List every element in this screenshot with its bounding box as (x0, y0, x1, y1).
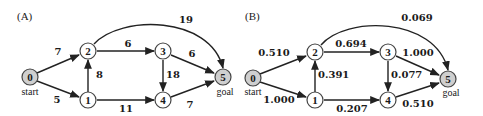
node-3: 3 (380, 44, 396, 60)
svg-text:4: 4 (385, 94, 391, 106)
node-3: 3 (155, 43, 171, 59)
weight-0-2: 7 (55, 46, 62, 57)
weight-0-2: 0.510 (258, 47, 289, 58)
edge-0-2 (260, 56, 306, 74)
svg-text:5: 5 (220, 71, 226, 83)
node-4: 4 (155, 92, 171, 108)
panel-a: (A) 7 5 8 6 19 11 18 6 7 (17, 10, 234, 114)
weight-2-5: 0.069 (401, 12, 432, 23)
weight-2-3: 0.694 (335, 38, 366, 49)
node-0: 0 start (244, 70, 261, 97)
goal-label: goal (442, 87, 459, 98)
weight-4-5: 0.510 (402, 98, 433, 109)
svg-text:0: 0 (27, 71, 33, 83)
start-label: start (21, 86, 38, 97)
node-5: 5 goal (215, 69, 234, 97)
weight-1-4: 0.207 (336, 103, 367, 114)
weight-3-4: 18 (166, 69, 180, 80)
node-4: 4 (380, 92, 396, 108)
node-1: 1 (80, 92, 96, 108)
weight-4-5: 7 (187, 99, 194, 110)
weight-1-2: 8 (96, 69, 103, 80)
weight-3-5: 1.000 (402, 47, 433, 58)
panel-b-weights: 0.510 1.000 0.391 0.694 0.069 0.207 0.07… (258, 12, 433, 114)
weight-1-2: 0.391 (318, 69, 349, 80)
panel-a-weights: 7 5 8 6 19 11 18 6 7 (54, 14, 196, 114)
svg-text:5: 5 (445, 73, 451, 85)
node-5: 5 goal (440, 71, 460, 98)
weight-1-4: 11 (119, 103, 133, 114)
panel-b: (B) 0.510 1.000 0.391 0.694 0.069 0.207 … (244, 10, 459, 114)
node-0: 0 start (21, 69, 38, 97)
svg-text:1: 1 (85, 94, 91, 106)
weight-3-5: 6 (189, 48, 196, 59)
svg-text:2: 2 (312, 46, 318, 58)
panel-a-edges (37, 25, 223, 100)
weight-3-4: 0.077 (391, 69, 422, 80)
edge-4-5 (396, 83, 439, 97)
svg-text:3: 3 (385, 46, 391, 58)
edge-4-5 (171, 81, 214, 97)
weight-2-3: 6 (125, 38, 132, 49)
svg-text:0: 0 (250, 72, 256, 84)
node-1: 1 (307, 92, 323, 108)
svg-text:2: 2 (85, 45, 91, 57)
panel-b-label: (B) (245, 10, 260, 23)
node-2: 2 (307, 44, 323, 60)
edge-0-2 (37, 55, 79, 73)
node-2: 2 (80, 43, 96, 59)
panel-a-label: (A) (17, 10, 33, 23)
start-label: start (244, 86, 261, 97)
weight-0-1: 1.000 (263, 94, 294, 105)
diagram-canvas: (A) 7 5 8 6 19 11 18 6 7 (0, 0, 483, 116)
svg-text:4: 4 (160, 94, 166, 106)
goal-label: goal (216, 86, 233, 97)
panel-b-edges (260, 26, 448, 100)
weight-0-1: 5 (54, 94, 61, 105)
svg-text:1: 1 (312, 94, 318, 106)
svg-text:3: 3 (160, 45, 166, 57)
weight-2-5: 19 (179, 14, 193, 25)
